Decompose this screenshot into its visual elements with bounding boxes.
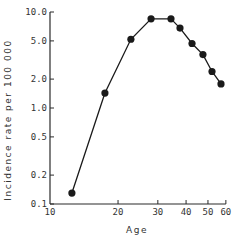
y-axis: 0.10.20.51.02.05.010.0 — [25, 7, 54, 209]
y-tick-label: 5.0 — [31, 36, 47, 46]
x-tick-label: 20 — [113, 207, 124, 217]
y-tick-label: 0.2 — [31, 170, 47, 180]
series-layer — [68, 15, 224, 196]
data-point-marker — [199, 51, 206, 58]
y-tick-label: 10.0 — [25, 7, 47, 17]
series-line — [72, 19, 221, 193]
x-tick-label: 10 — [45, 207, 56, 217]
y-tick-label: 2.0 — [31, 74, 47, 84]
y-tick-label: 0.5 — [31, 132, 47, 142]
y-tick-label: 1.0 — [31, 103, 47, 113]
data-point-marker — [167, 15, 174, 22]
data-point-marker — [176, 24, 183, 31]
data-point-marker — [188, 40, 195, 47]
y-axis-title: Incidence rate per 100 000 — [3, 39, 13, 200]
data-point-marker — [217, 80, 224, 87]
data-point-marker — [208, 68, 215, 75]
x-axis: 102030405060 — [45, 200, 232, 217]
x-tick-label: 50 — [203, 207, 214, 217]
data-point-marker — [101, 89, 108, 96]
chart-canvas: 0.10.20.51.02.05.010.0 102030405060 Age … — [0, 0, 239, 244]
data-point-marker — [68, 189, 75, 196]
x-tick-label: 40 — [181, 207, 192, 217]
data-point-marker — [127, 36, 134, 43]
x-axis-title: Age — [126, 225, 148, 235]
x-tick-label: 60 — [220, 207, 231, 217]
data-point-marker — [147, 15, 154, 22]
x-tick-label: 30 — [152, 207, 163, 217]
